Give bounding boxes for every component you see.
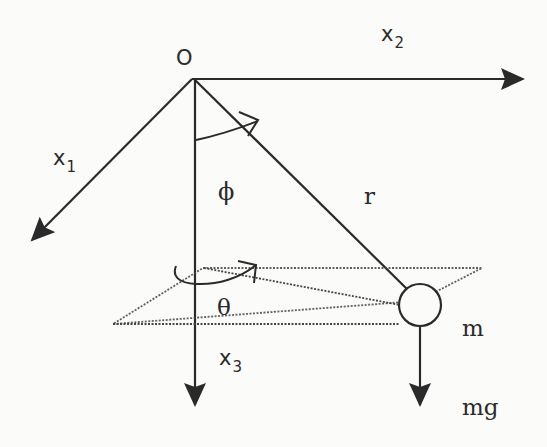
x1-axis-subscript: 1 [66,158,76,176]
x1-axis-letter: x [53,146,65,170]
x3-axis-label: x3 [219,348,242,369]
x1-axis-label: x1 [53,148,76,169]
mass-label: m [462,317,484,340]
r-label: r [364,185,375,208]
phi-label: ϕ [218,180,234,204]
x2-axis-letter: x [381,22,393,46]
origin-label: O [176,48,193,69]
projection-line [204,268,400,305]
x3-axis-letter: x [219,346,231,370]
x3-axis-subscript: 3 [232,358,242,376]
x2-axis-label: x2 [381,24,404,45]
mass-bob [399,284,441,326]
theta-label: θ [217,296,231,319]
pendulum-diagram [0,0,547,447]
x2-axis-subscript: 2 [394,34,404,52]
phi-angle-arc [196,121,258,140]
gravity-force-label: mg [462,396,499,419]
